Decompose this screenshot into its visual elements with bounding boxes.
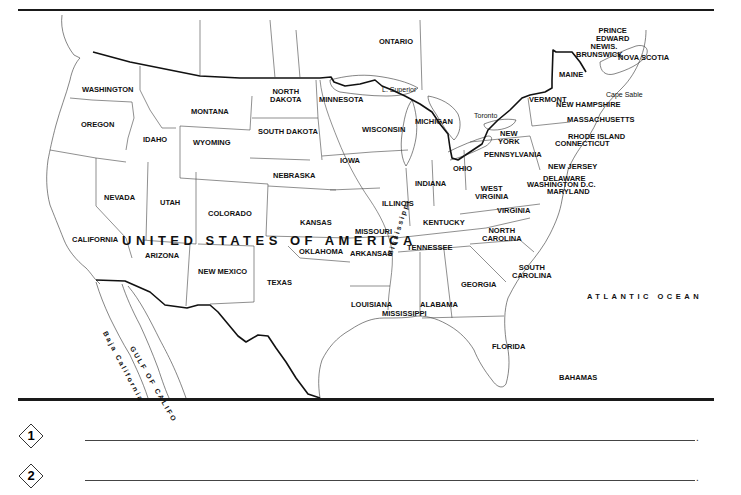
label-california: CALIFORNIA [72,236,118,244]
label-new-york: NEWYORK [498,130,520,146]
id-mt-border [140,66,176,128]
ia-mo-border [330,188,380,190]
label-minnesota: MINNESOTA [319,96,363,104]
wy-co-ne-border [180,178,268,184]
label-north-dakota: NORTHDAKOTA [270,88,302,104]
ga-sc-border [470,246,506,282]
answer-blank-2[interactable] [85,480,695,481]
answer-period: . [696,472,699,483]
label-kentucky: KENTUCKY [423,219,465,227]
label-maine: MAINE [559,71,583,79]
label-alabama: ALABAMA [420,301,458,309]
or-ca-nv-border [50,150,126,162]
dakotas-mn-border [316,80,322,160]
label-utah: UTAH [160,199,180,207]
label-nevada: NEVADA [104,194,135,202]
label-montana: MONTANA [191,108,229,116]
co-ks-border [266,184,268,236]
label-idaho: IDAHO [143,136,167,144]
label-nova-scotia: NOVA SCOTIA [618,54,669,62]
label-wisconsin: WISCONSIN [362,126,405,134]
label-virginia: VIRGINIA [497,207,530,215]
map-bottom-border [18,398,714,401]
label-oklahoma: OKLAHOMA [299,248,343,256]
answer-row-2: 2 . [10,463,730,493]
answer-row-1: 1 . [10,423,730,453]
or-id-border [126,102,134,150]
label-pennsylvania: PENNSYLVANIA [484,151,542,159]
ne-ks-border [268,186,336,190]
label-connecticut: CONNECTICUT [555,140,610,148]
label-ohio: OHIO [453,165,472,173]
label-arizona: ARIZONA [145,252,179,260]
label-mississippi: MISSISSIPPI [382,310,427,318]
label-kansas: KANSAS [300,219,332,227]
wa-or-border [70,98,132,102]
answer-blank-1[interactable] [85,440,695,441]
label-texas: TEXAS [267,279,292,287]
label-florida: FLORIDA [492,343,525,351]
label-georgia: GEORGIA [461,281,496,289]
label-bahamas: BAHAMAS [559,374,597,382]
label-west-virginia: WESTVIRGINIA [475,185,508,201]
map-top-border [18,9,714,11]
label-ontario: ONTARIO [379,38,413,46]
nv-ut-border [146,162,148,240]
map-title: UNITED STATES OF AMERICA [122,234,417,248]
label-new-brunswick: NEWBRUNSWICK [576,43,623,59]
wi-il-border [372,150,408,152]
label-south-dakota: SOUTH DAKOTA [258,128,318,136]
label-indiana: INDIANA [415,180,446,188]
label-wyoming: WYOMING [193,139,231,147]
label-new-hampshire: NEW HAMPSHIRE [556,101,621,109]
label-l-superior: L. Superior [382,86,416,94]
answer-number: 2 [18,463,44,489]
label-iowa: IOWA [340,157,360,165]
label-massachusetts: MASSACHUSETTS [567,116,635,124]
label-new-jersey: NEW JERSEY [548,163,597,171]
label-maryland: MARYLAND [547,188,590,196]
label-louisiana: LOUISIANA [351,301,392,309]
label-cape-sable: Cape Sable [606,91,643,99]
label-colorado: COLORADO [208,210,252,218]
sd-ne-border [250,158,310,160]
label-north-carolina: NORTHCAROLINA [482,227,522,243]
mexico-mainland-coast [128,286,186,398]
canada-lines [200,20,422,90]
az-nm-border [186,244,190,306]
label-oregon: OREGON [81,121,114,129]
answer-period: . [696,432,699,443]
mississippi-river [320,80,392,310]
label-nebraska: NEBRASKA [273,172,316,180]
ocean-label: ATLANTIC OCEAN [587,293,702,301]
label-toronto: Toronto [474,112,497,120]
label-washington: WASHINGTON [82,86,134,94]
gulf-coastline [319,316,506,398]
label-michigan: MICHIGAN [415,118,453,126]
label-south-carolina: SOUTHCAROLINA [512,264,552,280]
label-new-mexico: NEW MEXICO [198,268,247,276]
answer-number: 1 [18,423,44,449]
ga-fl-border [422,316,504,318]
